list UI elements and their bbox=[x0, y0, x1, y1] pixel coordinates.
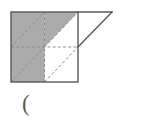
dashed-diagonal-bottom-right bbox=[45, 47, 79, 82]
answer-parenthesis: ( bbox=[22, 92, 30, 115]
geometry-figure: ( bbox=[0, 0, 147, 125]
triangle-hypotenuse bbox=[78, 12, 112, 47]
